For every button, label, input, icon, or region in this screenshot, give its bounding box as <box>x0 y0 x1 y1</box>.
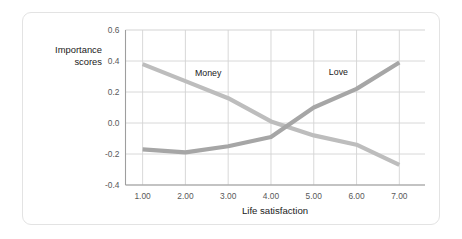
x-tick-label: 5.00 <box>294 191 334 201</box>
series-label-money: Money <box>195 68 221 78</box>
x-tick-label: 7.00 <box>379 191 419 201</box>
chart-plot-svg <box>0 0 462 239</box>
gridlines-horizontal <box>126 30 426 185</box>
x-tick-label: 2.00 <box>165 191 205 201</box>
y-tick-label: 0.2 <box>94 87 120 97</box>
x-tick-label: 3.00 <box>208 191 248 201</box>
y-tick-label: 0.4 <box>94 56 120 66</box>
x-tick-label: 1.00 <box>123 191 163 201</box>
y-tick-label: -0.2 <box>94 149 120 159</box>
series-label-love: Love <box>329 67 348 77</box>
x-axis-title: Life satisfaction <box>130 205 420 217</box>
x-tick-label: 4.00 <box>251 191 291 201</box>
y-tick-label: 0.0 <box>94 118 120 128</box>
x-tick-label: 6.00 <box>337 191 377 201</box>
figure-root: Importance scores Life satisfaction 0.60… <box>0 0 462 239</box>
y-tick-label: -0.4 <box>94 180 120 190</box>
y-axis-title: Importance scores <box>30 44 102 67</box>
gridlines-vertical <box>143 30 400 185</box>
y-tick-label: 0.6 <box>94 25 120 35</box>
